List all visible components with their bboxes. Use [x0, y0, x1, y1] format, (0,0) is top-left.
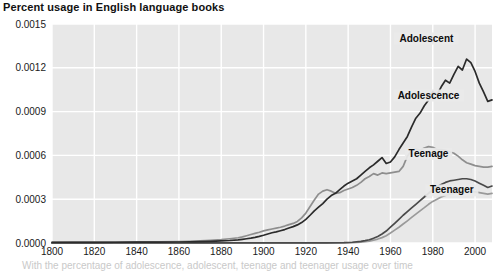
y-axis-tick-label: 0.0006 — [15, 150, 46, 161]
x-axis-tick-labels: 1800182018401860188019001920194019601980… — [41, 246, 487, 257]
x-axis-tick-label: 1900 — [252, 246, 275, 257]
x-axis-tick-label: 2000 — [464, 246, 487, 257]
y-axis-tick-labels: 0.00000.00030.00060.00090.00120.0015 — [15, 19, 46, 249]
x-axis-tick-label: 1980 — [422, 246, 445, 257]
x-axis-tick-label: 1800 — [41, 246, 64, 257]
x-axis-tick-label: 1940 — [337, 246, 360, 257]
y-axis-tick-label: 0.0003 — [15, 194, 46, 205]
x-axis-tick-label: 1880 — [210, 246, 233, 257]
y-axis-tick-label: 0.0015 — [15, 19, 46, 30]
caption-strip: With the percentage of adolescence, adol… — [0, 261, 496, 275]
series-label-adolescent: Adolescent — [399, 33, 454, 44]
plot-area — [52, 24, 492, 243]
x-axis-tick-label: 1960 — [379, 246, 402, 257]
y-axis-tick-label: 0.0009 — [15, 106, 46, 117]
series-label-teenage: Teenage — [409, 148, 449, 159]
line-chart-canvas: 0.00000.00030.00060.00090.00120.0015 180… — [0, 0, 496, 275]
x-axis-tick-label: 1860 — [168, 246, 191, 257]
x-axis-tick-label: 1920 — [295, 246, 318, 257]
y-axis-tick-label: 0.0012 — [15, 62, 46, 73]
figure-caption: With the percentage of adolescence, adol… — [22, 261, 413, 271]
plot-background — [52, 24, 492, 243]
series-label-adolescence: Adolescence — [398, 90, 460, 101]
series-label-teenager: Teenager — [430, 184, 474, 195]
x-axis-tick-label: 1820 — [83, 246, 106, 257]
x-axis-tick-label: 1840 — [125, 246, 148, 257]
chart-figure: Percent usage in English language books … — [0, 0, 496, 275]
